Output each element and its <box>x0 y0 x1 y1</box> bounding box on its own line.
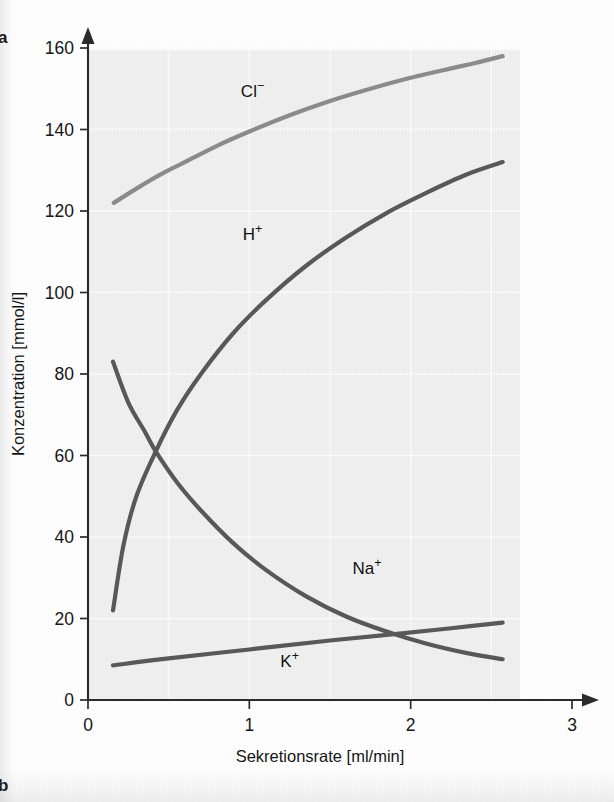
y-tick-label: 120 <box>45 201 74 221</box>
y-axis-ticks: 020406080100120140160 <box>45 38 88 710</box>
x-axis-ticks: 0123 <box>83 700 577 735</box>
figure-panel-a: a b 020406080100120140160 0123 Cl−H+Na+K… <box>0 0 614 802</box>
x-axis-arrowhead <box>582 694 599 707</box>
y-tick-label: 80 <box>55 364 75 384</box>
y-axis-arrowhead <box>82 27 95 44</box>
y-tick-label: 140 <box>45 120 74 140</box>
x-axis-title: Sekretionsrate [ml/min] <box>236 747 405 765</box>
y-tick-label: 60 <box>55 446 75 466</box>
x-tick-label: 2 <box>406 715 416 735</box>
y-tick-label: 20 <box>55 609 75 629</box>
y-axis-title: Konzentration [mmol/l] <box>9 292 27 456</box>
y-tick-label: 40 <box>55 527 75 547</box>
y-tick-label: 0 <box>64 690 74 710</box>
y-tick-label: 100 <box>45 283 74 303</box>
x-tick-label: 3 <box>567 715 577 735</box>
line-chart: 020406080100120140160 0123 Cl−H+Na+K+ Se… <box>0 0 614 802</box>
x-tick-label: 1 <box>244 715 254 735</box>
y-tick-label: 160 <box>45 38 74 58</box>
x-tick-label: 0 <box>83 715 93 735</box>
plot-area-background <box>88 50 520 700</box>
